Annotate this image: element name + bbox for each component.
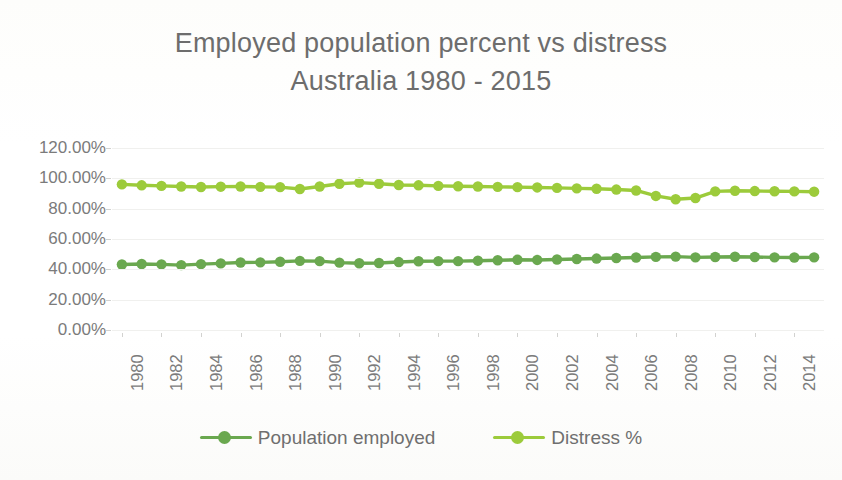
x-axis-tick-label: 1998 bbox=[485, 354, 502, 391]
x-axis-tick-mark bbox=[241, 333, 242, 337]
x-axis-tick-label: 2002 bbox=[564, 354, 581, 391]
x-axis-tick-label: 1990 bbox=[327, 354, 344, 391]
x-axis-tick-label: 1994 bbox=[406, 354, 423, 391]
chart-legend: Population employedDistress % bbox=[0, 428, 842, 447]
x-axis-tick-mark bbox=[280, 333, 281, 337]
x-axis-tick-mark bbox=[201, 333, 202, 337]
x-axis-tick-mark bbox=[122, 333, 123, 337]
x-axis-tick-mark bbox=[517, 333, 518, 337]
chart-plot-wrapper: 0.00%20.00%40.00%60.00%80.00%100.00%120.… bbox=[0, 0, 842, 480]
x-axis-tick-label: 1984 bbox=[208, 354, 225, 391]
x-axis-tick-label: 2008 bbox=[683, 354, 700, 391]
x-axis-tick-mark bbox=[438, 333, 439, 337]
legend-label: Population employed bbox=[258, 428, 435, 447]
x-axis-tick-mark bbox=[320, 333, 321, 337]
x-axis-tick-mark bbox=[478, 333, 479, 337]
x-axis-tick-label: 2010 bbox=[722, 354, 739, 391]
x-axis-tick-mark bbox=[794, 333, 795, 337]
legend-swatch-icon bbox=[200, 430, 252, 446]
x-axis-tick-mark bbox=[636, 333, 637, 337]
x-axis-tick-label: 2006 bbox=[643, 354, 660, 391]
x-axis-tick-mark bbox=[597, 333, 598, 337]
x-axis-tick-label: 1980 bbox=[129, 354, 146, 391]
x-axis-tick-mark bbox=[676, 333, 677, 337]
x-axis-tick-label: 2014 bbox=[801, 354, 818, 391]
legend-swatch-icon bbox=[493, 430, 545, 446]
legend-distress[interactable]: Distress % bbox=[493, 428, 642, 447]
legend-population-employed[interactable]: Population employed bbox=[200, 428, 435, 447]
x-axis-tick-label: 1988 bbox=[287, 354, 304, 391]
x-axis-tick-mark bbox=[755, 333, 756, 337]
x-axis-tick-label: 2000 bbox=[524, 354, 541, 391]
legend-marker-icon bbox=[218, 431, 231, 444]
x-axis-tick-mark bbox=[399, 333, 400, 337]
x-axis-tick-label: 2012 bbox=[762, 354, 779, 391]
x-axis-tick-mark bbox=[715, 333, 716, 337]
legend-marker-icon bbox=[511, 431, 524, 444]
x-axis-tick-label: 1996 bbox=[445, 354, 462, 391]
legend-label: Distress % bbox=[551, 428, 642, 447]
x-axis-tick-label: 1982 bbox=[168, 354, 185, 391]
x-axis-tick-mark bbox=[557, 333, 558, 337]
x-axis-tick-mark bbox=[359, 333, 360, 337]
x-axis-labels: 1980198219841986198819901992199419961998… bbox=[0, 0, 842, 480]
x-axis-tick-label: 1992 bbox=[366, 354, 383, 391]
x-axis-tick-label: 2004 bbox=[604, 354, 621, 391]
x-axis-tick-label: 1986 bbox=[248, 354, 265, 391]
x-axis-tick-mark bbox=[161, 333, 162, 337]
